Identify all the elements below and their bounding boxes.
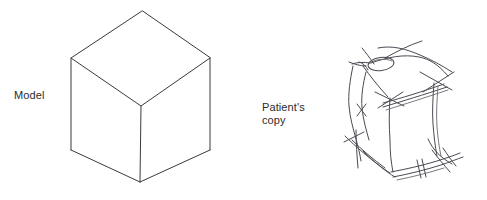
sketch-bottom-edge-line-2 bbox=[393, 157, 463, 177]
sketch-top-left-overshoot bbox=[362, 48, 374, 64]
sketch-mid-strut-line-1 bbox=[383, 84, 444, 103]
sketch-oval-loop-icon bbox=[367, 56, 394, 72]
patient-copy-label: Patient'scopy bbox=[262, 101, 305, 127]
patient-copy-label-line2: copy bbox=[262, 114, 286, 126]
model-cube-bottom-left-edge bbox=[71, 150, 140, 182]
patient-copy-cube bbox=[344, 41, 463, 180]
figure-container: Model Patient'scopy bbox=[0, 0, 487, 200]
model-label: Model bbox=[14, 89, 44, 102]
model-cube-top-face-edges bbox=[71, 11, 210, 106]
figure-drawing-canvas bbox=[0, 0, 487, 200]
model-cube-bottom-right-edge bbox=[140, 150, 210, 182]
model-cube-front-vertical-edge bbox=[140, 106, 141, 182]
sketch-left-inner-edge bbox=[362, 72, 369, 140]
patient-copy-label-line1: Patient's bbox=[262, 101, 305, 113]
model-cube bbox=[71, 11, 210, 182]
sketch-right-vertical-edge-double bbox=[437, 86, 441, 156]
